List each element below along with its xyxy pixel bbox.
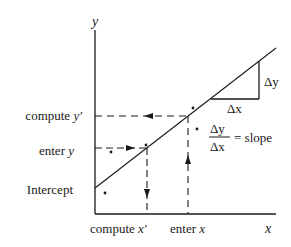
regression-line [95, 48, 276, 188]
arrow-up-icon [185, 155, 191, 164]
slope-numerator: Δy [210, 121, 225, 136]
delta-y-label: Δy [264, 74, 279, 89]
data-point [196, 128, 199, 131]
delta-x-label: Δx [227, 101, 242, 116]
data-point [110, 151, 113, 154]
compute-y-label: compute y′ [25, 108, 82, 123]
slope-equals-label: = slope [234, 130, 272, 145]
data-point [104, 192, 107, 195]
y-axis-label: y [90, 14, 99, 29]
enter-x-label: enter x [170, 221, 205, 236]
compute-x-label: compute x′ [90, 221, 147, 236]
x-axis-label: x [264, 221, 272, 236]
data-point [192, 107, 195, 110]
enter-y-label: enter y [39, 143, 74, 158]
regression-diagram: y x compute y′ enter y Intercept compute… [0, 0, 291, 247]
arrow-down-icon [144, 189, 150, 198]
data-point [145, 144, 148, 147]
arrow-right-icon [126, 145, 135, 151]
slope-denominator: Δx [210, 139, 225, 154]
arrow-left-icon [144, 113, 153, 119]
intercept-label: Intercept [27, 182, 74, 197]
